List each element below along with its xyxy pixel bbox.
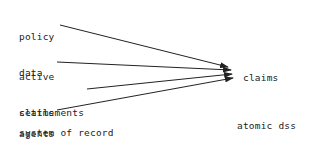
edge-policy-data-to-claims <box>60 25 228 67</box>
edge-layer <box>0 0 310 153</box>
edge-active-claims-to-claims <box>57 62 231 70</box>
edge-settlements-to-claims <box>87 74 232 89</box>
